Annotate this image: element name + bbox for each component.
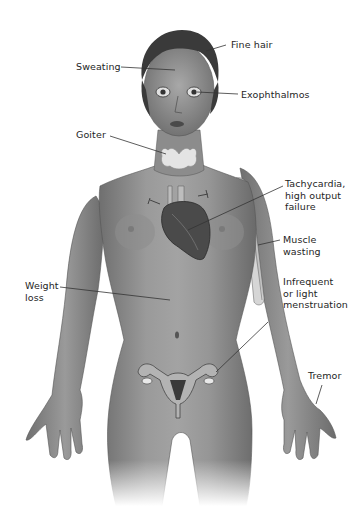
leader-tremor bbox=[316, 385, 322, 404]
head bbox=[141, 30, 218, 136]
label-goiter: Goiter bbox=[76, 129, 106, 141]
label-weight-loss: Weight loss bbox=[25, 280, 59, 303]
left-arm bbox=[26, 196, 104, 460]
label-fine-hair: Fine hair bbox=[231, 39, 273, 51]
illustration-canvas: Fine hair Sweating Exophthalmos Goiter T… bbox=[0, 0, 363, 506]
label-muscle-wasting: Muscle wasting bbox=[283, 234, 321, 257]
label-tachycardia: Tachycardia, high output failure bbox=[285, 178, 345, 213]
label-menstruation: Infrequent or light menstruation bbox=[283, 276, 348, 311]
label-tremor: Tremor bbox=[308, 370, 342, 382]
label-exophthalmos: Exophthalmos bbox=[241, 89, 310, 101]
label-sweating: Sweating bbox=[76, 61, 121, 73]
